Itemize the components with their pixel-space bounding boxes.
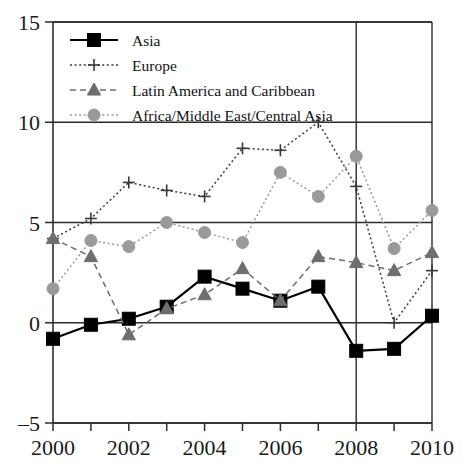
data-point-square-filled [350,344,363,357]
y-tick-label: 10 [18,110,40,135]
data-point-plus [88,59,100,71]
data-point-square-filled [426,309,439,322]
data-point-square-filled [47,332,60,345]
data-point-circle [388,243,400,255]
legend-item-europe: Europe [70,57,177,74]
legend-item-africa-middle-east-central-asia: Africa/Middle East/Central Asia [70,107,333,124]
data-point-circle [47,283,59,295]
data-point-circle [199,227,211,239]
data-point-triangle [236,262,249,274]
x-tick-label: 2004 [183,435,227,460]
y-tick-label: 15 [18,10,40,35]
x-tick-label: 2008 [334,435,378,460]
data-point-plus [199,190,211,202]
data-point-circle [85,235,97,247]
y-tick-label: 5 [29,211,40,236]
chart-container: –5051015 200020022004200620082010 AsiaEu… [0,0,462,467]
data-series-group [46,116,438,357]
data-point-circle [274,166,286,178]
data-point-triangle [46,232,59,244]
y-axis-tick-labels: –5051015 [17,10,40,436]
y-tick-label: –5 [17,411,40,436]
data-point-plus [350,180,362,192]
x-tick-label: 2002 [107,435,151,460]
data-point-circle [426,204,438,216]
legend-item-latin-america-and-caribbean: Latin America and Caribbean [70,82,315,99]
data-point-triangle [198,288,211,300]
data-point-circle [350,150,362,162]
legend-item-label: Europe [132,57,177,74]
data-point-triangle [122,328,135,340]
data-point-square-filled [198,270,211,283]
data-point-square-filled [388,342,401,355]
data-point-circle [88,109,100,121]
x-tick-label: 2010 [410,435,454,460]
data-point-plus [274,144,286,156]
data-point-plus [426,265,438,277]
data-point-circle [237,237,249,249]
data-point-triangle [312,250,325,262]
legend-item-label: Latin America and Caribbean [132,82,315,99]
data-point-square-filled [84,318,97,331]
data-point-plus [388,317,400,329]
data-point-triangle [84,250,97,262]
legend-item-label: Asia [132,32,161,49]
legend-item-asia: Asia [70,32,161,49]
data-point-circle [312,190,324,202]
x-tick-label: 2006 [258,435,302,460]
data-point-circle [123,241,135,253]
data-point-circle [161,217,173,229]
data-point-square-filled [88,34,101,47]
data-point-square-filled [122,312,135,325]
x-tick-label: 2000 [31,435,75,460]
data-point-square-filled [236,282,249,295]
legend-item-label: Africa/Middle East/Central Asia [132,107,333,124]
x-axis-tick-labels: 200020022004200620082010 [31,435,454,460]
line-chart: –5051015 200020022004200620082010 AsiaEu… [0,0,462,467]
chart-legend: AsiaEuropeLatin America and CaribbeanAfr… [70,32,333,124]
data-point-triangle [87,83,100,95]
data-point-plus [237,142,249,154]
y-tick-label: 0 [29,311,40,336]
data-point-square-filled [312,280,325,293]
series-asia [47,270,439,357]
data-point-triangle [425,246,438,258]
data-point-plus [161,184,173,196]
